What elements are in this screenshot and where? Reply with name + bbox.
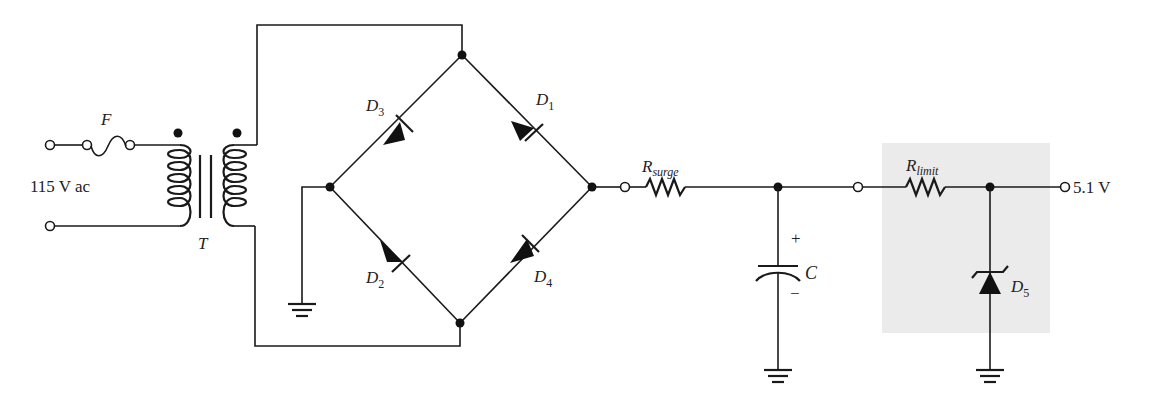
capacitor-label: C <box>805 263 818 283</box>
diode-d1-icon <box>511 121 543 141</box>
output-terminal <box>1061 183 1070 192</box>
d2-label: D2 <box>365 268 384 291</box>
r-surge-label: Rsurge <box>641 157 679 179</box>
secondary-bottom-wire <box>255 226 460 346</box>
fuse <box>83 136 181 156</box>
transformer-label: T <box>198 234 209 253</box>
ground-icon <box>288 304 316 316</box>
transformer <box>168 129 257 227</box>
primary-polarity-dot <box>174 129 183 138</box>
ground-icon <box>976 370 1004 382</box>
output-voltage-label: 5.1 V <box>1073 178 1111 197</box>
input-voltage-label: 115 V ac <box>30 177 91 196</box>
r-surge-icon <box>646 179 685 195</box>
d1-label: D1 <box>535 90 554 113</box>
diode-d4-icon <box>510 235 539 263</box>
fuse-icon <box>91 136 126 156</box>
secondary-coil-icon <box>224 145 247 226</box>
circuit-diagram: 115 V ac F T D3 D1 D2 D4 D5 Rsurge Rlimi… <box>0 0 1149 400</box>
d3-label: D3 <box>365 96 384 119</box>
ground-icon <box>764 370 792 382</box>
primary-coil-icon <box>168 145 191 226</box>
capacitor-minus-label: − <box>790 284 800 303</box>
fuse-label: F <box>100 110 112 129</box>
bridge-ground <box>288 187 330 316</box>
rectifier-output-terminal <box>621 183 630 192</box>
diode-d2-icon <box>380 240 410 272</box>
capacitor-plus-label: + <box>791 229 801 248</box>
regulator-input-terminal <box>854 183 863 192</box>
input-terminal-bottom <box>46 222 55 231</box>
secondary-polarity-dot <box>233 129 242 138</box>
input-terminal-top <box>46 141 55 150</box>
d4-label: D4 <box>533 267 552 290</box>
